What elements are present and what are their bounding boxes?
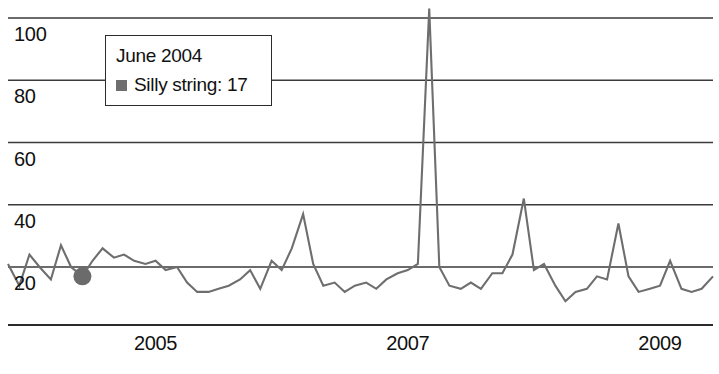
chart-container: 10080604020 200520072009 June 2004 Silly… xyxy=(0,0,719,374)
highlighted-point-marker[interactable] xyxy=(73,267,91,285)
y-axis-tick-label: 20 xyxy=(14,273,36,293)
tooltip-series-value: Silly string: 17 xyxy=(134,72,247,98)
x-axis-tick-label: 2009 xyxy=(638,333,681,353)
highlighted-data-point[interactable] xyxy=(73,267,91,285)
tooltip-series-row: Silly string: 17 xyxy=(116,72,261,98)
data-point-tooltip: June 2004 Silly string: 17 xyxy=(105,35,272,106)
tooltip-title: June 2004 xyxy=(116,41,261,71)
x-axis-tick-label: 2005 xyxy=(134,333,177,353)
x-axis-tick-label: 2007 xyxy=(386,333,429,353)
y-axis-tick-label: 60 xyxy=(14,149,36,169)
series-color-swatch-icon xyxy=(116,80,127,91)
y-axis-tick-label: 100 xyxy=(14,24,46,44)
y-axis-tick-label: 40 xyxy=(14,211,36,231)
y-axis-tick-label: 80 xyxy=(14,86,36,106)
